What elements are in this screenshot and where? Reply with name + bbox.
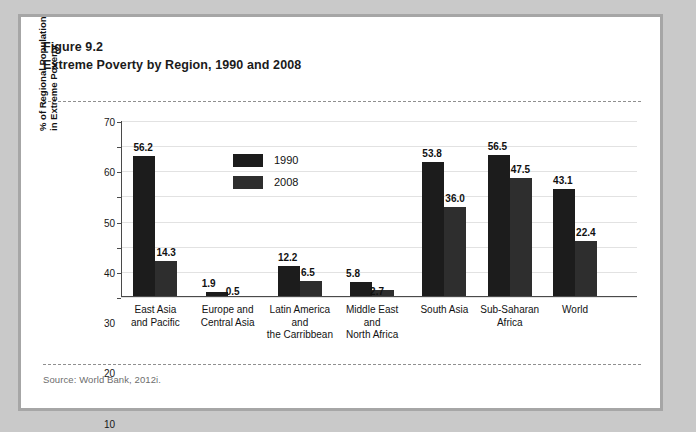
figure-card: Figure 9.2 Extreme Poverty by Region, 19… xyxy=(18,14,663,411)
y-axis-title: % of Regional Population in Extreme Pove… xyxy=(37,0,59,131)
x-axis-label-line: North Africa xyxy=(313,329,431,342)
y-tick-label-40: 40 xyxy=(104,267,115,278)
x-axis-label-line: World xyxy=(516,304,634,317)
y-tick-label-70: 70 xyxy=(104,117,115,128)
legend: 1990 2008 xyxy=(233,149,298,193)
x-axis-label-line: Africa xyxy=(451,317,569,330)
gridline-0: 0 xyxy=(121,297,637,298)
x-axis-label-line: and xyxy=(313,317,431,330)
y-tick-label-50: 50 xyxy=(104,217,115,228)
legend-item-1990: 1990 xyxy=(233,149,298,171)
figure-number: Figure 9.2 xyxy=(43,39,643,55)
legend-label-2008: 2008 xyxy=(274,176,298,188)
legend-swatch-1990 xyxy=(233,154,263,167)
y-tick-label-10: 10 xyxy=(104,418,115,429)
y-axis-title-line-1: % of Regional Population xyxy=(37,16,48,131)
source-note: Source: World Bank, 2012i. xyxy=(43,374,161,385)
legend-label-1990: 1990 xyxy=(274,154,298,166)
axis-lines xyxy=(121,121,637,297)
x-axis-label: World xyxy=(516,304,634,317)
y-tick-mark-0 xyxy=(117,298,121,299)
legend-item-2008: 2008 xyxy=(233,171,298,193)
y-tick-label-60: 60 xyxy=(104,167,115,178)
bar-chart: % of Regional Population in Extreme Pove… xyxy=(43,113,643,358)
figure-title: Extreme Poverty by Region, 1990 and 2008 xyxy=(43,57,643,74)
divider-top xyxy=(43,101,641,102)
figure-header: Figure 9.2 Extreme Poverty by Region, 19… xyxy=(43,39,643,74)
y-axis-title-line-2: in Extreme Poverty xyxy=(48,45,59,131)
legend-swatch-2008 xyxy=(233,176,263,189)
plot-area: 010203040506070 56.214.3East Asiaand Pac… xyxy=(121,121,637,297)
divider-bottom xyxy=(43,364,641,365)
